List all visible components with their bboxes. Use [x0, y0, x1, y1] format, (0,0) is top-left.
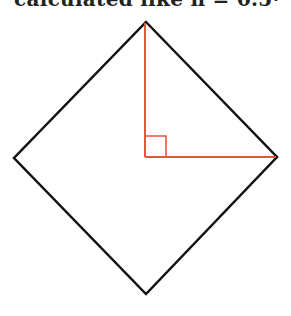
rotated-square-diagram	[0, 0, 291, 316]
right-angle-marker	[145, 136, 166, 157]
